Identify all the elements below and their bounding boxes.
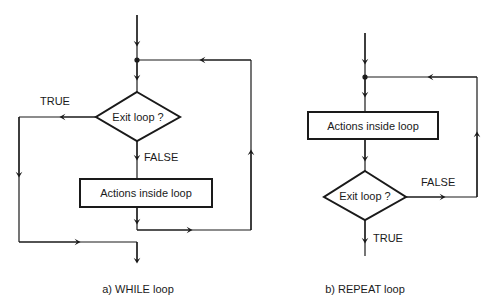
while-false-label: FALSE — [144, 152, 178, 163]
repeat-action-label: Actions inside loop — [327, 121, 419, 132]
flowchart-canvas — [0, 0, 493, 307]
while-action-label: Actions inside loop — [100, 188, 192, 199]
repeat-loop-diagram — [308, 33, 477, 256]
while-decision-label: Exit loop ? — [112, 112, 163, 123]
while-true-label: TRUE — [40, 96, 70, 107]
while-caption: a) WHILE loop — [102, 284, 174, 295]
repeat-caption: b) REPEAT loop — [325, 284, 405, 295]
repeat-true-label: TRUE — [373, 233, 403, 244]
repeat-decision-label: Exit loop ? — [339, 191, 390, 202]
while-loop-diagram — [19, 15, 251, 262]
repeat-false-label: FALSE — [421, 177, 455, 188]
